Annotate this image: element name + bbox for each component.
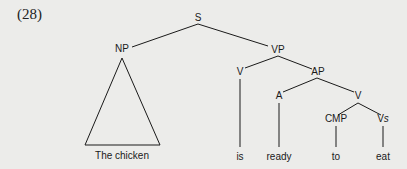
node-np: NP: [115, 43, 129, 55]
node-vs: Vs: [377, 113, 389, 125]
tree-branches: [0, 0, 407, 169]
node-ap: AP: [311, 66, 324, 78]
branch-vp-ap: [278, 56, 312, 69]
branch-vp-v: [245, 56, 278, 68]
node-vp: VP: [271, 44, 284, 56]
leaf-ready: ready: [266, 151, 291, 163]
syntax-tree-diagram: (28) S NP VP V AP A V CMP Vs The chicken…: [0, 0, 407, 169]
node-a: A: [276, 90, 283, 102]
np-triangle: [85, 58, 160, 145]
node-vs-sub: s: [384, 113, 389, 124]
node-v-inner: V: [355, 90, 362, 102]
leaf-to: to: [332, 151, 340, 163]
node-cmp: CMP: [325, 113, 347, 125]
leaf-the-chicken: The chicken: [95, 150, 149, 162]
node-v-is: V: [237, 66, 244, 78]
branch-s-vp: [198, 24, 268, 46]
example-number: (28): [17, 6, 42, 23]
node-vs-main: V: [377, 113, 384, 124]
branch-ap-v: [317, 78, 354, 92]
node-s: S: [195, 12, 202, 24]
branch-s-np: [132, 24, 198, 47]
leaf-is: is: [236, 151, 243, 163]
branch-ap-a: [283, 78, 317, 92]
leaf-eat: eat: [376, 151, 390, 163]
